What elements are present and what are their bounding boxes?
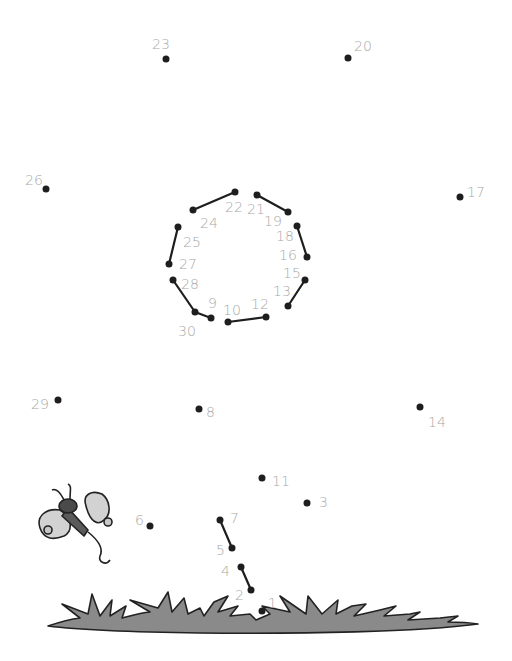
dot-label-17: 17 (467, 185, 485, 199)
dot-label-22: 22 (225, 200, 243, 214)
dot-26[interactable] (43, 186, 50, 193)
dot-label-10: 10 (223, 303, 241, 317)
dot-label-13: 13 (273, 284, 291, 298)
dot-label-16: 16 (279, 248, 297, 262)
dot-6[interactable] (147, 523, 154, 530)
dot-label-4: 4 (221, 564, 230, 578)
dot-29[interactable] (55, 397, 62, 404)
dot-label-7: 7 (230, 511, 239, 525)
dot-12[interactable] (263, 314, 270, 321)
dot-label-29: 29 (31, 397, 49, 411)
dot-label-1: 1 (268, 596, 277, 610)
dot-label-21: 21 (247, 202, 265, 216)
dot-label-11: 11 (272, 474, 290, 488)
dot-label-2: 2 (235, 588, 244, 602)
dot-20[interactable] (345, 55, 352, 62)
butterfly-illustration (39, 484, 112, 563)
dot-2[interactable] (248, 587, 255, 594)
dot-label-14: 14 (428, 415, 446, 429)
dot-label-18: 18 (276, 229, 294, 243)
dot-label-15: 15 (283, 266, 301, 280)
dot-label-5: 5 (216, 543, 225, 557)
dot-1[interactable] (259, 608, 266, 615)
segment-18-16 (297, 226, 307, 257)
dot-label-26: 26 (25, 173, 43, 187)
dot-label-27: 27 (179, 257, 197, 271)
dot-10[interactable] (225, 319, 232, 326)
dot-28[interactable] (170, 277, 177, 284)
dot-19[interactable] (285, 209, 292, 216)
dot-11[interactable] (259, 475, 266, 482)
dot-label-25: 25 (183, 235, 201, 249)
dot-4[interactable] (238, 564, 245, 571)
dot-to-dot-worksheet: 1234567891011121314151617181920212223242… (0, 0, 512, 661)
dot-3[interactable] (304, 500, 311, 507)
dot-7[interactable] (217, 517, 224, 524)
dot-label-8: 8 (206, 405, 215, 419)
dot-23[interactable] (163, 56, 170, 63)
dot-25[interactable] (175, 224, 182, 231)
dot-14[interactable] (417, 404, 424, 411)
dot-17[interactable] (457, 194, 464, 201)
dot-30[interactable] (192, 309, 199, 316)
dot-13[interactable] (285, 303, 292, 310)
dot-label-9: 9 (208, 296, 217, 310)
dot-label-6: 6 (135, 513, 144, 527)
dot-label-12: 12 (251, 297, 269, 311)
dot-label-30: 30 (178, 324, 196, 338)
dot-9[interactable] (208, 315, 215, 322)
dot-27[interactable] (166, 261, 173, 268)
dot-18[interactable] (294, 223, 301, 230)
dot-label-24: 24 (200, 216, 218, 230)
dot-21[interactable] (254, 192, 261, 199)
dot-label-20: 20 (354, 39, 372, 53)
dot-5[interactable] (229, 545, 236, 552)
segment-25-27 (169, 227, 178, 264)
dot-label-23: 23 (152, 37, 170, 51)
dot-label-28: 28 (181, 277, 199, 291)
dot-15[interactable] (302, 277, 309, 284)
dot-8[interactable] (196, 406, 203, 413)
dot-24[interactable] (190, 207, 197, 214)
dot-16[interactable] (304, 254, 311, 261)
dot-label-19: 19 (264, 214, 282, 228)
dot-22[interactable] (232, 189, 239, 196)
dot-label-3: 3 (319, 495, 328, 509)
